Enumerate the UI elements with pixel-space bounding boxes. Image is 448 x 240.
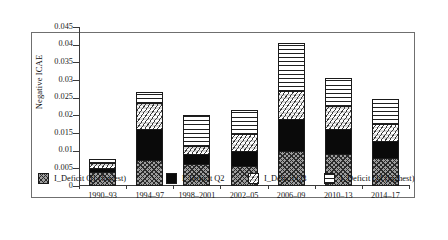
bar-segment-q4[interactable] <box>325 78 352 106</box>
y-tick-mark <box>73 133 79 134</box>
chart-legend: I_Deficit Q1 (lowest)I_Deficit Q2I_Defic… <box>32 173 414 193</box>
plot-area: Negative ICAE 00.0050.010.0150.020.0250.… <box>32 33 414 197</box>
legend-item-q2[interactable]: I_Deficit Q2 <box>166 173 225 184</box>
bar-segment-q2[interactable] <box>183 154 210 165</box>
y-tick-label: 0.035 <box>35 58 73 66</box>
y-tick-label: 0.005 <box>35 164 73 172</box>
bar-segment-q3[interactable] <box>231 134 258 151</box>
y-tick-mark <box>73 62 79 63</box>
bar-segment-q3[interactable] <box>372 124 399 141</box>
y-tick-mark <box>73 80 79 81</box>
bar-segment-q4[interactable] <box>372 99 399 123</box>
y-tick-mark <box>73 186 79 187</box>
y-tick-label: 0.02 <box>35 111 73 119</box>
y-tick-label: 0.015 <box>35 129 73 137</box>
bar-segment-q3[interactable] <box>183 146 210 154</box>
bar-segment-q4[interactable] <box>183 115 210 145</box>
legend-swatch-cross-hatch-icon <box>38 173 49 184</box>
chart-figure: Negative ICAE 00.0050.010.0150.020.0250.… <box>31 32 415 198</box>
y-tick-mark <box>73 115 79 116</box>
y-tick-mark <box>73 98 79 99</box>
bar-stack[interactable] <box>325 78 352 186</box>
bar-segment-q4[interactable] <box>136 92 163 103</box>
bar-segment-q4[interactable] <box>231 110 258 134</box>
bar-segment-q2[interactable] <box>325 129 352 154</box>
bar-segment-q2[interactable] <box>136 129 163 159</box>
legend-label: I_Deficit Q4 (highest) <box>340 173 414 184</box>
y-tick-label: 0.045 <box>35 23 73 31</box>
y-tick-label: 0.025 <box>35 93 73 101</box>
legend-label: I_Deficit Q3 <box>264 173 307 184</box>
y-tick-mark <box>73 45 79 46</box>
bar-group <box>79 27 409 186</box>
legend-label: I_Deficit Q2 <box>182 173 225 184</box>
y-tick-label: 0.03 <box>35 76 73 84</box>
y-tick-mark <box>73 27 79 28</box>
bar-segment-q2[interactable] <box>372 141 399 159</box>
legend-swatch-wavy-speckle-icon <box>248 173 259 184</box>
bar-segment-q4[interactable] <box>278 43 305 91</box>
y-tick-label: 0.04 <box>35 40 73 48</box>
bar-segment-q3[interactable] <box>136 103 163 130</box>
y-tick-mark <box>73 168 79 169</box>
legend-swatch-horizontal-lines-icon <box>324 173 335 184</box>
y-tick-label: 0.01 <box>35 146 73 154</box>
bar-segment-q2[interactable] <box>231 151 258 166</box>
legend-item-q3[interactable]: I_Deficit Q3 <box>248 173 307 184</box>
bar-stack[interactable] <box>278 43 305 186</box>
y-tick-mark <box>73 151 79 152</box>
x-axis-tick-labels: 1990–931994–971998–20012002–052006–09201… <box>79 191 409 205</box>
legend-label: I_Deficit Q1 (lowest) <box>54 173 126 184</box>
legend-item-q1[interactable]: I_Deficit Q1 (lowest) <box>38 173 126 184</box>
bar-stack[interactable] <box>136 92 163 186</box>
bar-segment-q3[interactable] <box>325 106 352 129</box>
legend-item-q4[interactable]: I_Deficit Q4 (highest) <box>324 173 414 184</box>
legend-swatch-solid-black-icon <box>166 173 177 184</box>
bar-segment-q2[interactable] <box>278 119 305 151</box>
bar-segment-q3[interactable] <box>278 91 305 119</box>
